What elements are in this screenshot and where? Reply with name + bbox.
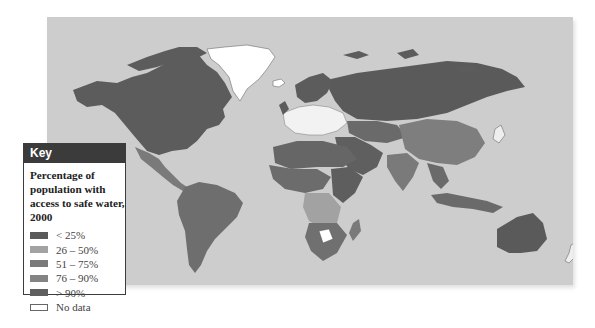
legend-label: 76 – 90% bbox=[56, 272, 98, 284]
region-southeast-asia bbox=[427, 163, 449, 189]
legend-label: < 25% bbox=[56, 229, 85, 241]
legend-item: < 25% bbox=[30, 228, 125, 242]
legend-title: Percentage of population with access to … bbox=[30, 168, 126, 224]
region-japan bbox=[493, 125, 505, 143]
region-new-zealand bbox=[565, 243, 573, 263]
legend-list: < 25% 26 – 50% 51 – 75% 76 – 90% > 90% N… bbox=[30, 228, 125, 314]
region-north-america bbox=[73, 53, 232, 155]
legend-item: 51 – 75% bbox=[30, 257, 125, 271]
region-madagascar bbox=[349, 219, 361, 241]
region-europe bbox=[283, 105, 347, 135]
legend-item: No data bbox=[30, 300, 125, 314]
legend-label: 26 – 50% bbox=[56, 244, 98, 256]
region-west-africa bbox=[269, 165, 331, 193]
legend-label: No data bbox=[56, 301, 91, 313]
legend-swatch bbox=[30, 304, 48, 311]
legend-swatch bbox=[30, 232, 48, 239]
legend-label: 51 – 75% bbox=[56, 258, 98, 270]
legend-swatch bbox=[30, 275, 48, 282]
legend-item: 76 – 90% bbox=[30, 271, 125, 285]
region-indonesia bbox=[431, 193, 503, 213]
legend-item: > 90% bbox=[30, 286, 125, 300]
legend-swatch bbox=[30, 260, 48, 267]
region-india bbox=[387, 153, 419, 191]
map-legend: Key Percentage of population with access… bbox=[23, 143, 126, 295]
region-russia bbox=[329, 61, 525, 121]
region-south-america bbox=[177, 182, 243, 273]
region-scandinavia bbox=[295, 73, 333, 103]
legend-header: Key bbox=[24, 144, 125, 163]
region-iceland bbox=[273, 79, 285, 87]
legend-swatch bbox=[30, 289, 48, 296]
legend-swatch bbox=[30, 246, 48, 253]
region-australia bbox=[497, 213, 547, 253]
legend-label: > 90% bbox=[56, 287, 85, 299]
legend-item: 26 – 50% bbox=[30, 242, 125, 256]
